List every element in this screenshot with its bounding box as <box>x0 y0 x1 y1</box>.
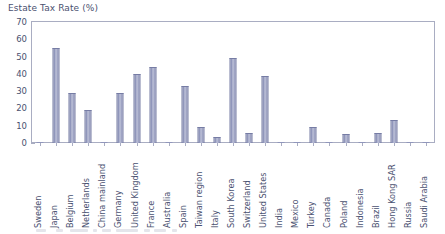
x-tick-mark <box>104 143 105 146</box>
x-axis-label: Switzerland <box>243 180 252 229</box>
x-tick-mark <box>394 143 395 146</box>
bar-slot <box>305 22 321 143</box>
x-axis-label: Spain <box>179 205 188 229</box>
y-tick-label-30: 30 <box>0 86 27 96</box>
scan-artifact <box>144 229 150 232</box>
y-tick-label-10: 10 <box>0 121 27 131</box>
x-tick-mark <box>137 143 138 146</box>
x-axis-label: United States <box>259 173 268 229</box>
x-axis-label: Saudi Arabia <box>420 176 429 229</box>
bar-slot <box>338 22 354 143</box>
x-axis-label: India <box>275 208 284 229</box>
x-axis-label: Germany <box>114 190 123 229</box>
bar[interactable] <box>69 93 76 143</box>
x-tick-mark <box>153 143 154 146</box>
bar[interactable] <box>197 127 204 143</box>
estate-tax-rate-bar-chart: Estate Tax Rate (%) 010203040506070 Swed… <box>0 0 445 234</box>
bar-slot <box>418 22 434 143</box>
x-tick-mark <box>329 143 330 146</box>
scan-artifact <box>172 229 177 232</box>
x-tick-mark <box>201 143 202 146</box>
bars-container <box>32 22 434 143</box>
bar-slot <box>128 22 144 143</box>
bar-slot <box>145 22 161 143</box>
scan-artifact <box>154 229 166 232</box>
bar-slot <box>80 22 96 143</box>
x-axis-label: China mainland <box>98 164 107 229</box>
bar[interactable] <box>310 127 317 143</box>
bar-slot <box>321 22 337 143</box>
x-axis-label: Russia <box>404 202 413 229</box>
x-tick-mark <box>378 143 379 146</box>
bar-slot <box>32 22 48 143</box>
x-axis-label: Japan <box>50 205 59 229</box>
x-tick-mark <box>40 143 41 146</box>
x-tick-mark <box>217 143 218 146</box>
bar-slot <box>370 22 386 143</box>
y-axis-tick-labels: 010203040506070 <box>0 21 27 143</box>
bar[interactable] <box>149 67 156 143</box>
x-tick-mark <box>362 143 363 146</box>
bar[interactable] <box>246 133 253 143</box>
x-tick-mark <box>281 143 282 146</box>
bar[interactable] <box>374 133 381 143</box>
bar[interactable] <box>53 48 60 143</box>
bar[interactable] <box>342 134 349 144</box>
x-axis-label: Poland <box>340 201 349 229</box>
bar[interactable] <box>85 110 92 143</box>
bar[interactable] <box>229 58 236 143</box>
x-tick-mark <box>233 143 234 146</box>
bar-slot <box>64 22 80 143</box>
bar-slot <box>193 22 209 143</box>
chart-title: Estate Tax Rate (%) <box>8 3 98 13</box>
x-axis-label: United Kingdom <box>131 162 140 229</box>
scan-artifact <box>93 229 97 232</box>
x-axis-label: Turkey <box>307 201 316 229</box>
bar-slot <box>177 22 193 143</box>
y-tick-label-0: 0 <box>0 138 27 148</box>
x-tick-mark <box>72 143 73 146</box>
bar[interactable] <box>262 76 269 143</box>
bar-slot <box>112 22 128 143</box>
bar-slot <box>225 22 241 143</box>
x-axis-label: Indonesia <box>356 188 365 229</box>
bar[interactable] <box>133 74 140 143</box>
x-axis-label: Taiwan region <box>195 172 204 229</box>
y-tick-label-70: 70 <box>0 17 27 27</box>
x-tick-mark <box>169 143 170 146</box>
bar[interactable] <box>181 86 188 143</box>
bar[interactable] <box>117 93 124 143</box>
y-tick-label-60: 60 <box>0 34 27 44</box>
x-tick-mark <box>120 143 121 146</box>
bar-slot <box>161 22 177 143</box>
x-axis-label: Netherlands <box>82 178 91 229</box>
bar-slot <box>96 22 112 143</box>
y-tick-label-20: 20 <box>0 103 27 113</box>
scan-artifact <box>116 229 138 232</box>
bar-slot <box>273 22 289 143</box>
bar-slot <box>241 22 257 143</box>
y-tick-label-50: 50 <box>0 52 27 62</box>
scan-artifact <box>102 229 111 232</box>
bar-slot <box>257 22 273 143</box>
bar-slot <box>209 22 225 143</box>
bar-slot <box>354 22 370 143</box>
bar-slot <box>386 22 402 143</box>
x-tick-mark <box>88 143 89 146</box>
x-axis-label: South Korea <box>227 178 236 229</box>
x-tick-mark <box>249 143 250 146</box>
bar[interactable] <box>390 120 397 143</box>
x-axis-label: Belgium <box>66 194 75 229</box>
x-axis-label: Hong Kong SAR <box>388 164 397 229</box>
page-artifact <box>30 227 190 233</box>
bar-slot <box>402 22 418 143</box>
x-axis-label: Italy <box>211 210 220 229</box>
x-tick-mark <box>265 143 266 146</box>
x-tick-mark <box>313 143 314 146</box>
x-tick-mark <box>346 143 347 146</box>
x-axis-category-labels: SwedenJapanBelgiumNetherlandsChina mainl… <box>32 147 434 229</box>
bar-slot <box>289 22 305 143</box>
x-axis-label: France <box>147 201 156 229</box>
x-axis-label: Sweden <box>34 196 43 229</box>
x-axis-label: Australia <box>163 192 172 229</box>
